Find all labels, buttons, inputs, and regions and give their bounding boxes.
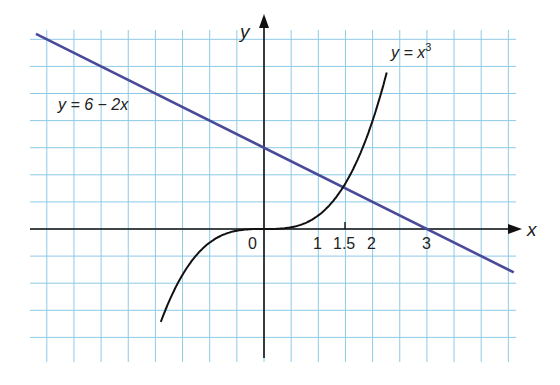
tick-label-2: 2 xyxy=(367,235,376,252)
grid xyxy=(30,30,516,362)
y-axis-arrow-icon xyxy=(259,14,269,28)
curve-y-equals-x-cubed xyxy=(161,73,387,322)
tick-label-0: 0 xyxy=(248,235,257,252)
x-axis-label: x xyxy=(526,219,538,240)
y-axis-label: y xyxy=(238,21,251,42)
tick-label-3: 3 xyxy=(422,235,431,252)
x-axis-arrow-icon xyxy=(508,224,522,234)
tick-label-1: 1 xyxy=(313,235,322,252)
line-label: y = 6 − 2x xyxy=(57,96,129,113)
curve-label: y = x3 xyxy=(390,41,431,61)
axes xyxy=(30,14,522,358)
chart: x y 0 1 1.5 2 3 y = 6 − 2x y = x3 xyxy=(0,0,560,385)
tick-label-1-5: 1.5 xyxy=(333,235,355,252)
line-y-equals-6-minus-2x xyxy=(36,34,514,272)
